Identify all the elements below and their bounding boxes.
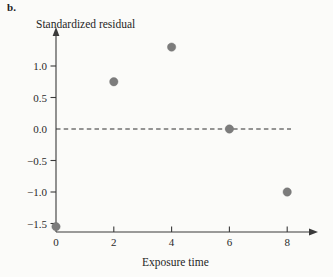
y-tick-label: −1.5 <box>27 218 47 230</box>
y-axis-arrow-icon <box>53 27 60 36</box>
x-axis-arrow-icon <box>309 229 318 236</box>
figure-panel: b. Standardized residual Exposure time 1… <box>0 0 333 277</box>
x-tick-label: 6 <box>227 236 233 248</box>
data-point <box>225 125 233 133</box>
data-point <box>167 43 175 51</box>
data-point <box>283 188 291 196</box>
y-tick-label: −0.5 <box>27 155 47 167</box>
y-tick-label: 1.0 <box>33 60 47 72</box>
x-tick-label: 0 <box>53 236 59 248</box>
data-point <box>52 222 60 230</box>
y-tick-label: 0.0 <box>33 123 47 135</box>
y-tick-label: 0.5 <box>33 92 47 104</box>
data-point <box>110 78 118 86</box>
y-tick-label: −1.0 <box>27 186 47 198</box>
x-tick-label: 4 <box>169 236 175 248</box>
scatter-plot: 1.00.50.0−0.5−1.0−1.502468 <box>0 0 333 277</box>
x-tick-label: 2 <box>111 236 117 248</box>
x-tick-label: 8 <box>284 236 290 248</box>
